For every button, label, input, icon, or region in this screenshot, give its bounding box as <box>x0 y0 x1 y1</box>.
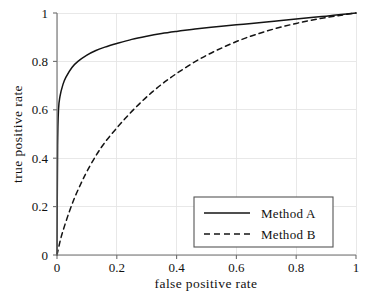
legend: Method A Method B <box>194 197 333 247</box>
y-tick-label-0: 0 <box>42 248 49 263</box>
x-axis-title: false positive rate <box>155 276 258 291</box>
legend-label-method-a: Method A <box>261 206 316 221</box>
y-axis-title: true positive rate <box>10 85 25 183</box>
roc-chart: 00.20.40.60.81 00.20.40.60.81 false posi… <box>0 0 372 308</box>
y-tick-label-3: 0.6 <box>32 102 49 117</box>
x-tick-label-5: 1 <box>353 260 360 275</box>
x-tick-label-4: 0.8 <box>288 260 304 275</box>
y-tick-label-2: 0.4 <box>32 151 49 166</box>
y-tick-label-1: 0.2 <box>32 199 48 214</box>
x-tick-label-0: 0 <box>54 260 61 275</box>
x-tick-label-2: 0.4 <box>168 260 185 275</box>
legend-label-method-b: Method B <box>261 227 316 242</box>
roc-plot-svg: 00.20.40.60.81 00.20.40.60.81 false posi… <box>0 0 372 308</box>
x-tick-label-3: 0.6 <box>228 260 245 275</box>
x-tick-label-1: 0.2 <box>109 260 125 275</box>
y-tick-label-5: 1 <box>42 6 49 21</box>
y-tick-label-4: 0.8 <box>32 54 48 69</box>
